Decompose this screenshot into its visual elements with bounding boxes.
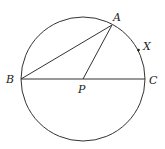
label-a: A (112, 11, 121, 24)
point-x-dot (137, 49, 140, 52)
chord-ba (21, 25, 112, 79)
label-b: B (5, 73, 14, 86)
label-p: P (77, 83, 86, 96)
label-x: X (142, 40, 152, 53)
label-c: C (149, 74, 158, 87)
geometry-diagram: A X B C P (0, 0, 165, 149)
